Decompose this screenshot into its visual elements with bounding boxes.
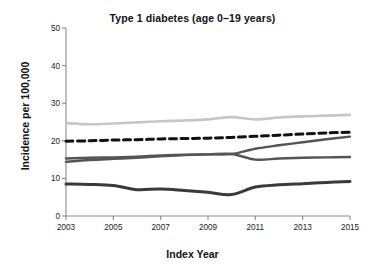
y-tick-label: 0	[55, 212, 60, 221]
y-tick-label: 20	[51, 137, 61, 146]
y-tick-label: 10	[51, 174, 61, 183]
y-tick-label: 40	[51, 62, 61, 71]
x-axis: 2003200520072009201120132015	[57, 216, 360, 232]
series-line-light-gray-upper	[66, 115, 350, 124]
series-line-black-lower	[66, 181, 350, 194]
y-tick-label: 50	[51, 24, 61, 33]
x-tick-label: 2013	[294, 223, 313, 232]
series-line-black-dashed	[66, 132, 350, 141]
y-axis: 01020304050	[51, 24, 66, 221]
chart-container: Type 1 diabetes (age 0–19 years) Inciden…	[0, 0, 385, 270]
x-tick-label: 2009	[199, 223, 218, 232]
x-tick-label: 2005	[104, 223, 123, 232]
x-tick-label: 2011	[247, 223, 265, 232]
x-tick-label: 2003	[57, 223, 76, 232]
x-tick-label: 2015	[341, 223, 360, 232]
y-tick-label: 30	[51, 99, 61, 108]
series-lines	[66, 115, 350, 195]
plot-area: 01020304050 2003200520072009201120132015	[0, 0, 385, 270]
x-tick-label: 2007	[152, 223, 171, 232]
